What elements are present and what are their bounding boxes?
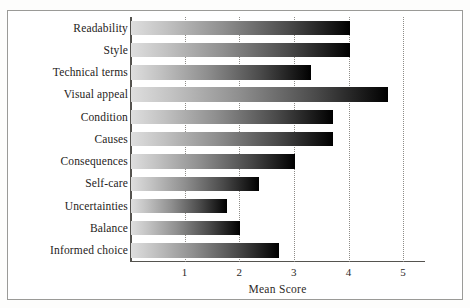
x-tick-label: 4 (334, 266, 364, 278)
bar (131, 154, 295, 168)
bar (131, 177, 259, 191)
x-axis-title: Mean Score (130, 283, 425, 295)
x-tick-label: 3 (279, 266, 309, 278)
category-label: Visual appeal (6, 88, 128, 100)
category-label: Balance (6, 222, 128, 234)
category-label: Informed choice (6, 244, 128, 256)
bar-row (130, 151, 425, 173)
bar (131, 110, 333, 124)
bar-row (130, 84, 425, 106)
bar-row (130, 195, 425, 217)
category-label: Condition (6, 111, 128, 123)
category-label: Technical terms (6, 66, 128, 78)
category-label: Self-care (6, 177, 128, 189)
bar-row (130, 217, 425, 239)
category-label: Causes (6, 133, 128, 145)
category-label: Style (6, 44, 128, 56)
bar (131, 43, 350, 57)
category-axis-labels: ReadabilityStyleTechnical termsVisual ap… (2, 17, 128, 262)
bar-row (130, 62, 425, 84)
category-label: Consequences (6, 155, 128, 167)
bar (131, 132, 333, 146)
plot-area: 12345 Mean Score (130, 17, 425, 262)
bar (131, 199, 227, 213)
bar (131, 65, 311, 79)
x-tick-label: 1 (170, 266, 200, 278)
bar (131, 221, 240, 235)
bar-row (130, 240, 425, 262)
figure: ReadabilityStyleTechnical termsVisual ap… (0, 0, 470, 308)
bar (131, 87, 388, 101)
bar-row (130, 106, 425, 128)
bar-row (130, 17, 425, 39)
x-tick-label: 2 (224, 266, 254, 278)
bar-row (130, 39, 425, 61)
bar-row (130, 173, 425, 195)
category-label: Readability (6, 22, 128, 34)
bar (131, 21, 350, 35)
x-tick-label: 5 (388, 266, 418, 278)
bar-row (130, 128, 425, 150)
category-label: Uncertainties (6, 200, 128, 212)
bar (131, 243, 279, 257)
